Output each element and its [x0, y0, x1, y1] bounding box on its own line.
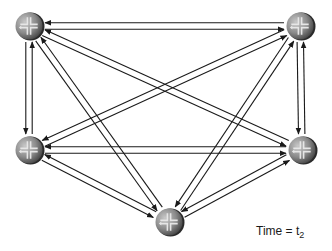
- arrow-tl-to-b: [36, 41, 157, 211]
- link-ml-mr: [45, 147, 286, 153]
- arrow-b-to-tr: [181, 41, 294, 210]
- links-layer: [26, 23, 305, 218]
- link-tl-ml: [26, 42, 32, 134]
- link-tl-mr: [42, 30, 289, 147]
- arrow-b-to-ml: [45, 155, 157, 212]
- router-middle-left-icon: [16, 137, 45, 165]
- link-tl-b: [36, 37, 163, 211]
- arrow-mr-to-tl: [45, 30, 289, 141]
- arrow-mr-to-tr: [304, 42, 305, 134]
- router-middle-right-icon: [289, 137, 318, 165]
- network-mesh-diagram: [0, 0, 332, 251]
- arrow-tr-to-ml: [42, 30, 284, 141]
- time-label: Time = t2: [256, 224, 304, 238]
- time-label-prefix: Time = t: [256, 224, 299, 238]
- router-top-right-icon: [287, 13, 316, 41]
- routers-layer: [16, 13, 318, 237]
- link-tr-b: [175, 38, 294, 211]
- router-bottom-icon: [156, 209, 185, 237]
- arrow-mr-to-b: [182, 155, 287, 212]
- link-tr-ml: [42, 30, 287, 147]
- router-top-left-icon: [16, 13, 45, 41]
- arrow-tr-to-mr: [297, 42, 298, 134]
- link-tr-mr: [297, 42, 305, 134]
- link-mr-b: [182, 155, 290, 217]
- arrow-ml-to-b: [42, 160, 154, 217]
- time-label-subscript: 2: [299, 230, 304, 240]
- arrow-tr-to-b: [175, 38, 288, 207]
- link-tl-tr: [45, 23, 284, 29]
